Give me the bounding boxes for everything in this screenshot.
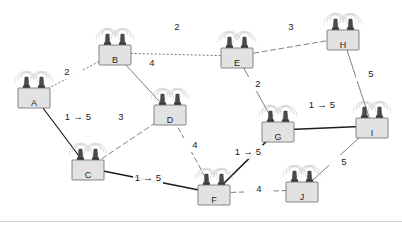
edge-weight-f-g: 1 → 5 [235,146,261,157]
edge-b-e [115,53,237,56]
edge-weight-g-i: 1 → 5 [309,99,335,110]
node-a[interactable]: A [15,71,53,108]
antenna-mast [39,77,44,86]
antenna-mast [24,77,29,86]
node-label: A [31,98,37,108]
antenna-mast [292,171,297,180]
footer-divider [0,221,402,222]
node-j[interactable]: J [283,165,321,202]
edge-weight-c-d: 3 [118,111,123,122]
node-label: I [371,128,374,138]
antenna-mast [333,19,338,28]
node-e[interactable]: E [218,31,256,68]
edge-weight-b-e: 2 [174,21,179,32]
edge-weight-e-g: 2 [255,78,260,89]
node-label: E [234,58,240,68]
antenna-mast [93,149,98,158]
antenna-mast [78,149,83,158]
edge-weight-a-c: 1 → 5 [65,111,91,122]
node-c[interactable]: C [69,143,107,180]
edge-weight-b-d: 4 [149,57,154,68]
edge-weight-a-b: 2 [64,66,69,77]
antenna-mast [105,34,110,43]
antenna-mast [160,94,165,103]
antenna-mast [377,107,382,116]
node-d[interactable]: D [151,88,189,125]
antenna-mast [204,174,209,183]
network-diagram-canvas: 21 → 52431 → 54321 → 541 → 555 ABCDEFGHI… [0,0,402,227]
node-label: H [340,40,347,50]
node-label: G [274,132,281,142]
antenna-mast [175,94,180,103]
node-label: D [167,115,174,125]
antenna-mast [242,37,247,46]
antenna-mast [120,34,125,43]
antenna-mast [219,174,224,183]
node-label: B [112,55,118,65]
node-f[interactable]: F [195,168,233,205]
antenna-mast [227,37,232,46]
edge-weight-h-i: 5 [368,68,373,79]
edge-weight-c-f: 1 → 5 [135,172,161,183]
edge-weight-e-h: 3 [288,21,293,32]
node-label: J [300,192,305,202]
edge-h-i [343,38,372,126]
antenna-mast [362,107,367,116]
node-label: F [211,195,217,205]
antenna-mast [348,19,353,28]
antenna-mast [307,171,312,180]
node-g[interactable]: G [259,105,297,142]
edge-weight-d-f: 4 [192,139,197,150]
antenna-mast [283,111,288,120]
node-label: C [85,170,92,180]
node-b[interactable]: B [96,28,134,65]
network-topology-svg: 21 → 52431 → 54321 → 541 → 555 ABCDEFGHI… [0,0,402,227]
antenna-mast [268,111,273,120]
edge-weight-f-j: 4 [256,183,261,194]
node-h[interactable]: H [324,13,362,50]
edge-weight-i-j: 5 [341,156,346,167]
node-i[interactable]: I [353,101,391,138]
